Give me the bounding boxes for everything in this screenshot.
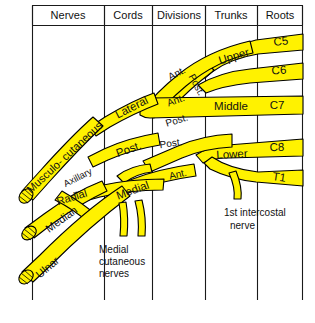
root-label-c7: C7 xyxy=(270,99,285,111)
root-label-t1: T1 xyxy=(272,170,287,184)
header-label-roots: Roots xyxy=(266,9,295,21)
brachial-plexus-figure: Nerves Cords Divisions Trunks Roots xyxy=(0,0,315,323)
annotation-1st-intercostal: 1st intercostal nerve xyxy=(224,207,286,231)
root-label-c8: C8 xyxy=(269,141,284,154)
annotation-1st-intercostal-line-1: 1st intercostal xyxy=(224,207,286,218)
header-label-divisions: Divisions xyxy=(157,9,202,21)
annotation-medial-cutaneous-line-2: cutaneous xyxy=(99,256,145,267)
header-label-cords: Cords xyxy=(113,9,143,21)
annotation-1st-intercostal-line-2: nerve xyxy=(230,220,255,231)
header-label-nerves: Nerves xyxy=(51,9,86,21)
figure-caption xyxy=(2,315,313,323)
plexus-svg: Nerves Cords Divisions Trunks Roots xyxy=(0,0,315,323)
band-medial-cutaneous-1 xyxy=(119,202,128,236)
annotation-medial-cutaneous-line-1: Medial xyxy=(99,244,128,255)
trunk-label-lower: Lower xyxy=(216,147,248,161)
root-label-c6: C6 xyxy=(271,64,287,77)
annotation-medial-cutaneous-line-3: nerves xyxy=(99,268,129,279)
band-t1-root xyxy=(204,157,303,186)
header-labels: Nerves Cords Divisions Trunks Roots xyxy=(51,9,295,21)
trunk-label-middle: Middle xyxy=(214,100,248,112)
header-label-trunks: Trunks xyxy=(214,9,248,21)
annotation-medial-cutaneous: Medial cutaneous nerves xyxy=(99,244,145,279)
nerve-label-axillary: Axillary xyxy=(61,165,93,189)
cord-label-post: Post. xyxy=(114,139,143,159)
trunk-label-upper: Upper xyxy=(217,46,251,67)
band-medial-cutaneous-2 xyxy=(135,200,145,236)
root-label-c5: C5 xyxy=(273,34,289,48)
